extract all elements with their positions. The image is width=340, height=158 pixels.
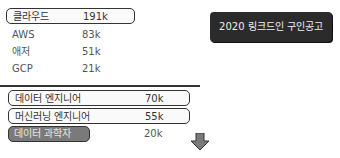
aws-row: AWS 83k: [6, 27, 135, 43]
data-engineer-row: 데이터 엔지니어 70k: [8, 90, 190, 106]
gcp-label: GCP: [12, 61, 33, 77]
aws-label: AWS: [12, 27, 35, 43]
ml-engineer-label: 머신러닝 엔지니어: [15, 109, 90, 125]
data-scientist-row: 데이터 과학자 20k: [8, 126, 190, 142]
aws-value: 83k: [82, 27, 101, 43]
data-scientist-value: 20k: [144, 126, 163, 142]
down-arrow-icon: [190, 133, 210, 151]
cloud-total-value: 191k: [83, 9, 108, 25]
ml-engineer-row: 머신러닝 엔지니어 55k: [8, 108, 190, 124]
title-box: 2020 링크드인 구인공고: [210, 12, 332, 42]
gcp-value: 21k: [82, 61, 101, 77]
azure-label: 애저: [12, 44, 30, 60]
data-engineer-value: 70k: [145, 91, 164, 107]
cloud-total-label: 클라우드: [13, 9, 49, 25]
data-engineer-label: 데이터 엔지니어: [15, 91, 81, 107]
azure-row: 애저 51k: [6, 44, 135, 60]
gcp-row: GCP 21k: [6, 61, 135, 77]
ml-engineer-value: 55k: [145, 109, 164, 125]
divider: [0, 85, 200, 87]
cloud-total-row: 클라우드 191k: [6, 8, 135, 24]
azure-value: 51k: [82, 44, 101, 60]
data-scientist-label: 데이터 과학자: [14, 126, 71, 142]
